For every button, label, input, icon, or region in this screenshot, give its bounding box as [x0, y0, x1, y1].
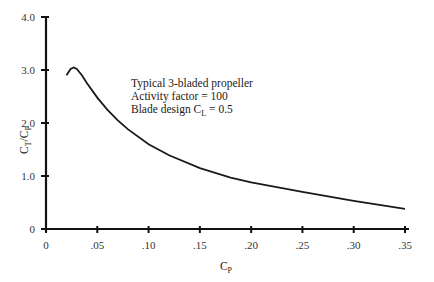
annotation: Typical 3-bladed propeller Activity fact…: [131, 77, 253, 118]
x-tick-label: .35: [398, 239, 412, 251]
ticks: 01.02.03.04.00.05.10.15.20.25.30.35: [21, 11, 412, 251]
annotation-line-2: Activity factor = 100: [131, 90, 228, 103]
x-tick-label: .20: [244, 239, 258, 251]
y-tick-label: 4.0: [21, 11, 35, 23]
x-tick-label: 0: [43, 239, 49, 251]
x-tick-label: .30: [347, 239, 361, 251]
y-axis-label: CT/CP: [18, 126, 33, 154]
annotation-line-3: Blade design CL = 0.5: [131, 103, 233, 118]
annotation-line-1: Typical 3-bladed propeller: [131, 77, 253, 90]
x-tick-label: .25: [296, 239, 310, 251]
x-axis-label: CP: [220, 260, 233, 275]
y-tick-label: 3.0: [21, 64, 35, 76]
x-tick-label: .10: [142, 239, 156, 251]
chart: 01.02.03.04.00.05.10.15.20.25.30.35 CT/C…: [0, 0, 434, 282]
y-tick-label: 1.0: [21, 170, 35, 182]
x-tick-label: .15: [193, 239, 207, 251]
x-tick-label: .05: [90, 239, 104, 251]
y-tick-label: 0: [30, 223, 36, 235]
axes: [43, 17, 409, 232]
